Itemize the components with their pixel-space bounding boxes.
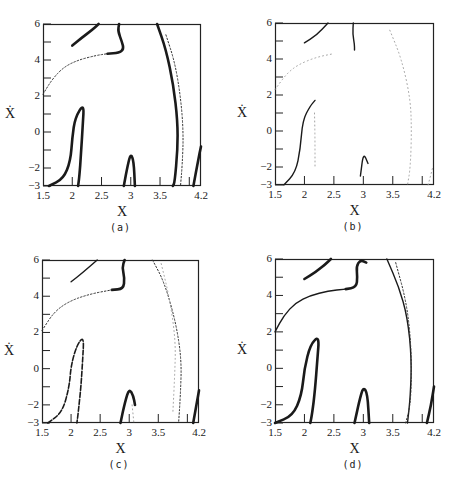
x-tick-label: 3.5 xyxy=(381,189,405,200)
trajectory-curve xyxy=(387,259,411,423)
trajectory-curve xyxy=(107,24,123,54)
x-tick-label: 3.5 xyxy=(146,427,170,438)
trajectory-curve xyxy=(304,23,328,43)
x-tick-label: 2 xyxy=(59,427,83,438)
time-derivative-dot-icon: · xyxy=(240,335,244,350)
trajectory-curve xyxy=(42,290,112,331)
panel-caption: (c) xyxy=(109,459,130,470)
plot-area xyxy=(43,24,201,186)
y-tick-label: 4 xyxy=(19,290,39,301)
x-tick-label: 2 xyxy=(292,427,316,438)
panel-c: 0246−2−31.522.533.54.2XX·(c) xyxy=(42,260,199,423)
x-axis-title: X xyxy=(117,204,127,220)
y-tick-label: 6 xyxy=(252,17,272,28)
y-tick-label: 0 xyxy=(252,362,272,373)
trajectory-curve xyxy=(275,339,318,423)
trajectory-curve xyxy=(43,54,107,94)
trajectory-curve xyxy=(49,108,84,186)
x-axis-title: X xyxy=(350,441,360,457)
trajectory-curve xyxy=(112,260,125,290)
panel-b: 0246−2−31.522.533.54.2XX·(b) xyxy=(275,23,434,185)
x-tick-label: 3 xyxy=(117,427,141,438)
x-tick-label: 4.2 xyxy=(189,190,213,201)
y-axis-title: X· xyxy=(4,343,14,359)
x-tick-label: 4.2 xyxy=(187,427,211,438)
x-tick-label: 3 xyxy=(351,189,375,200)
trajectory-curve xyxy=(346,261,367,289)
plot-area xyxy=(42,260,199,423)
x-tick-label: 3 xyxy=(351,427,375,438)
y-tick-label: −2 xyxy=(252,161,272,172)
y-tick-label: 0 xyxy=(252,125,272,136)
panel-d: 0246−2−31.522.533.54.2XX·(d) xyxy=(275,259,434,423)
x-tick-label: 3.5 xyxy=(148,190,172,201)
trajectory-curve xyxy=(355,389,370,423)
trajectory-curve xyxy=(275,54,334,90)
trajectory-curve xyxy=(124,156,135,186)
x-tick-label: 1.5 xyxy=(31,190,55,201)
panel-caption: (d) xyxy=(343,459,364,470)
trajectory-curve xyxy=(48,339,84,423)
y-tick-label: −2 xyxy=(252,399,272,410)
plot-area xyxy=(275,259,434,423)
x-tick-label: 2.5 xyxy=(322,427,346,438)
y-tick-label: −2 xyxy=(20,162,40,173)
trajectory-curve xyxy=(193,146,201,186)
y-tick-label: 6 xyxy=(19,254,39,265)
y-axis-title: X· xyxy=(237,342,247,358)
y-axis-title: X· xyxy=(5,106,15,122)
x-axis-title: X xyxy=(350,203,360,219)
y-tick-label: 4 xyxy=(252,53,272,64)
time-derivative-dot-icon: · xyxy=(8,99,12,114)
trajectory-curve xyxy=(360,156,368,176)
y-tick-label: 0 xyxy=(20,126,40,137)
trajectory-curve xyxy=(72,24,98,46)
trajectory-curve xyxy=(153,260,182,423)
y-tick-label: 0 xyxy=(19,363,39,374)
trajectory-curve xyxy=(71,260,97,282)
x-tick-label: 1.5 xyxy=(263,189,287,200)
trajectory-curve xyxy=(121,391,136,423)
trajectory-curve xyxy=(157,24,178,186)
trajectory-curve xyxy=(161,264,175,414)
y-tick-label: 2 xyxy=(252,89,272,100)
trajectory-curve xyxy=(275,289,346,332)
plot-area xyxy=(275,23,434,185)
y-tick-label: 2 xyxy=(252,326,272,337)
trajectory-curve xyxy=(304,259,331,279)
trajectory-curve xyxy=(132,405,134,423)
y-tick-label: 2 xyxy=(19,326,39,337)
y-tick-label: 4 xyxy=(20,54,40,65)
y-tick-label: 6 xyxy=(252,253,272,264)
y-tick-label: 2 xyxy=(20,90,40,101)
y-tick-label: −2 xyxy=(19,399,39,410)
x-axis-title: X xyxy=(116,441,126,457)
trajectory-curve xyxy=(353,23,355,50)
y-axis-title: X· xyxy=(237,105,247,121)
trajectory-curve xyxy=(284,100,315,185)
x-tick-label: 2.5 xyxy=(88,427,112,438)
x-tick-label: 1.5 xyxy=(30,427,54,438)
x-tick-label: 3 xyxy=(119,190,143,201)
panel-a: 0246−2−31.522.533.54.2XX·(a) xyxy=(43,24,201,186)
x-tick-label: 4.2 xyxy=(422,189,446,200)
panel-caption: (a) xyxy=(110,222,131,233)
panel-caption: (b) xyxy=(343,221,364,232)
time-derivative-dot-icon: · xyxy=(7,336,11,351)
x-tick-label: 2.5 xyxy=(90,190,114,201)
trajectory-curve xyxy=(390,30,412,185)
x-tick-label: 4.2 xyxy=(422,427,446,438)
x-tick-label: 3.5 xyxy=(381,427,405,438)
trajectory-curve xyxy=(315,113,316,167)
time-derivative-dot-icon: · xyxy=(240,98,244,113)
y-tick-label: 4 xyxy=(252,289,272,300)
y-tick-label: 6 xyxy=(20,18,40,29)
x-tick-label: 2 xyxy=(292,189,316,200)
trajectory-curve xyxy=(428,167,433,185)
x-tick-label: 1.5 xyxy=(263,427,287,438)
x-tick-label: 2 xyxy=(60,190,84,201)
x-tick-label: 2.5 xyxy=(322,189,346,200)
